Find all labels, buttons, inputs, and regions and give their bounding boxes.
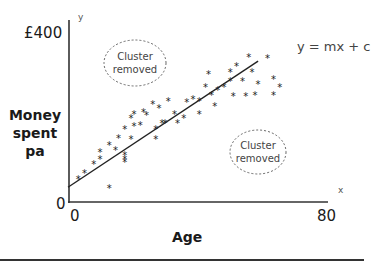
- asterisk-marker-icon: *: [197, 96, 202, 107]
- asterisk-marker-icon: *: [246, 52, 251, 63]
- asterisk-marker-icon: *: [228, 76, 233, 87]
- asterisk-marker-icon: *: [153, 134, 158, 145]
- asterisk-marker-icon: *: [153, 124, 158, 135]
- trend-line-equation: y = mx + c: [297, 39, 371, 54]
- bottom-divider: [0, 259, 364, 261]
- asterisk-marker-icon: *: [163, 118, 168, 129]
- x-axis-title: Age: [172, 229, 202, 245]
- asterisk-marker-icon: *: [116, 133, 121, 144]
- asterisk-marker-icon: *: [181, 113, 186, 124]
- asterisk-marker-icon: *: [256, 79, 261, 90]
- cluster-removed-annotation-upper: Cluster removed: [104, 50, 166, 76]
- asterisk-marker-icon: *: [206, 69, 211, 80]
- asterisk-marker-icon: *: [150, 99, 155, 110]
- asterisk-marker-icon: *: [107, 140, 112, 151]
- asterisk-marker-icon: *: [129, 134, 134, 145]
- asterisk-marker-icon: *: [166, 96, 171, 107]
- asterisk-marker-icon: *: [98, 154, 103, 165]
- asterisk-marker-icon: *: [265, 53, 270, 64]
- y-origin-label: 0: [56, 195, 66, 213]
- cluster-removed-annotation-lower: Cluster removed: [230, 139, 286, 165]
- asterisk-marker-icon: *: [203, 82, 208, 93]
- asterisk-marker-icon: *: [132, 121, 137, 132]
- asterisk-marker-icon: *: [209, 90, 214, 101]
- asterisk-marker-icon: *: [91, 159, 96, 170]
- asterisk-marker-icon: *: [253, 90, 258, 101]
- y-max-label: £400: [24, 24, 62, 42]
- asterisk-marker-icon: *: [277, 82, 282, 93]
- asterisk-marker-icon: *: [76, 174, 81, 185]
- asterisk-marker-icon: *: [231, 91, 236, 102]
- asterisk-marker-icon: *: [222, 82, 227, 93]
- asterisk-marker-icon: *: [191, 94, 196, 105]
- asterisk-marker-icon: *: [249, 67, 254, 78]
- asterisk-marker-icon: *: [215, 85, 220, 96]
- asterisk-marker-icon: *: [271, 74, 276, 85]
- asterisk-marker-icon: *: [243, 91, 248, 102]
- asterisk-marker-icon: *: [122, 154, 127, 165]
- asterisk-marker-icon: *: [122, 124, 127, 135]
- asterisk-marker-icon: *: [184, 97, 189, 108]
- x-origin-label: 0: [70, 207, 80, 225]
- x-max-label: 80: [317, 207, 336, 225]
- asterisk-marker-icon: *: [212, 101, 217, 112]
- asterisk-marker-icon: *: [271, 90, 276, 101]
- asterisk-marker-icon: *: [144, 110, 149, 121]
- x-axis-letter: x: [338, 185, 343, 195]
- asterisk-marker-icon: *: [175, 118, 180, 129]
- asterisk-marker-icon: *: [138, 120, 143, 131]
- y-axis-title: Money spent pa: [2, 106, 68, 160]
- asterisk-marker-icon: *: [197, 109, 202, 120]
- asterisk-marker-icon: *: [107, 183, 112, 194]
- y-axis-letter: y: [78, 12, 83, 22]
- asterisk-marker-icon: *: [156, 103, 161, 114]
- asterisk-marker-icon: *: [240, 76, 245, 87]
- asterisk-marker-icon: *: [234, 61, 239, 72]
- asterisk-marker-icon: *: [82, 168, 87, 179]
- asterisk-marker-icon: *: [113, 145, 118, 156]
